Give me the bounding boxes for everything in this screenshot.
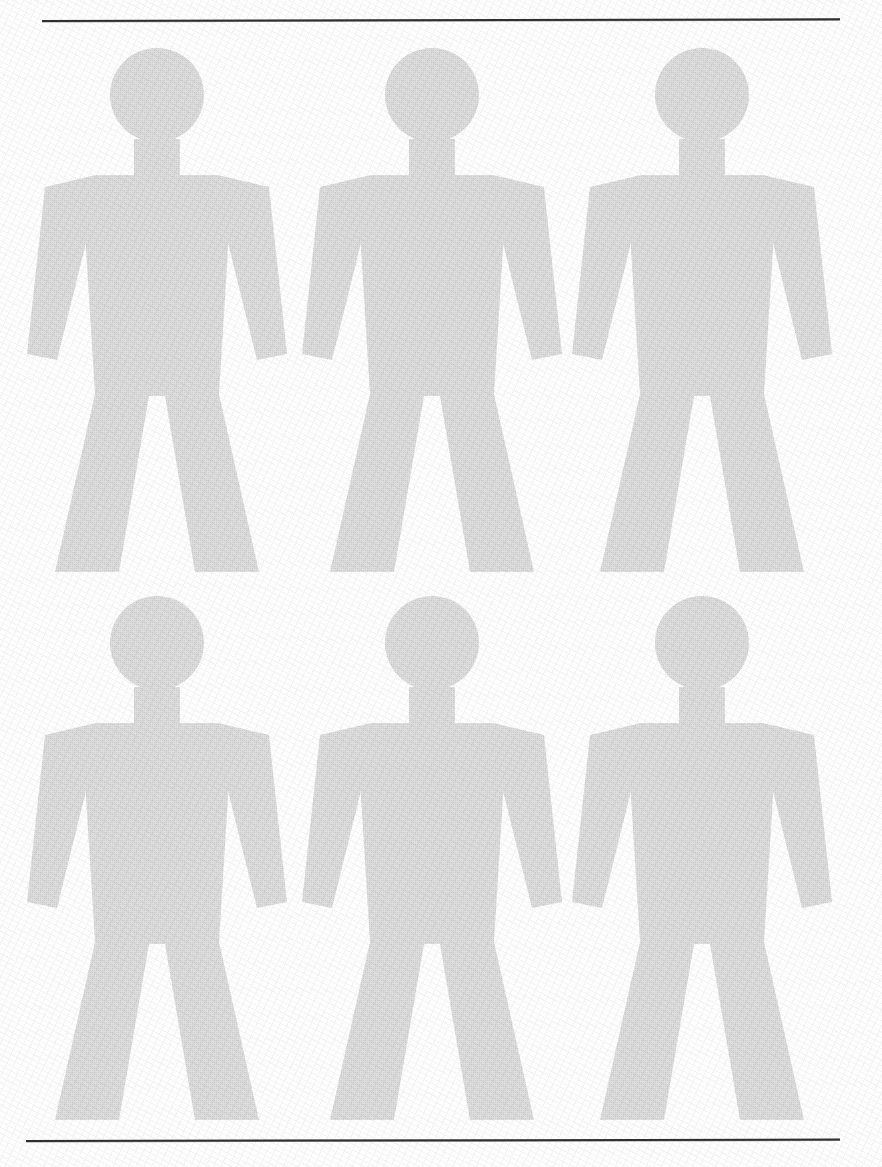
pictogram-svg	[564, 44, 840, 572]
pictogram-body	[27, 139, 287, 572]
pictogram-figure	[19, 592, 295, 1120]
pictogram-body	[572, 687, 832, 1120]
pictogram-body	[302, 139, 562, 572]
pictogram-figure	[19, 44, 295, 572]
pictogram-svg	[564, 592, 840, 1120]
pictogram-head	[655, 596, 749, 690]
pictogram-figure	[564, 592, 840, 1120]
pictogram-svg	[19, 592, 295, 1120]
pictogram-head	[385, 596, 479, 690]
pictogram-figure	[294, 44, 570, 572]
pictogram-figure-grid	[0, 0, 882, 1167]
pictogram-svg	[294, 44, 570, 572]
pictogram-figure	[564, 44, 840, 572]
scanned-page	[0, 0, 882, 1167]
pictogram-body	[27, 687, 287, 1120]
pictogram-svg	[19, 44, 295, 572]
pictogram-svg	[294, 592, 570, 1120]
pictogram-body	[572, 139, 832, 572]
pictogram-head	[110, 596, 204, 690]
pictogram-head	[110, 48, 204, 142]
pictogram-figure	[294, 592, 570, 1120]
pictogram-body	[302, 687, 562, 1120]
pictogram-head	[385, 48, 479, 142]
pictogram-head	[655, 48, 749, 142]
